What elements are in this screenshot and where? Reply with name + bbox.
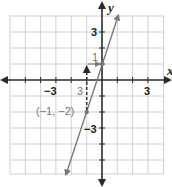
y-tick-label-neg3: −3 (84, 123, 97, 135)
x-tick-label-pos3: 3 (144, 85, 150, 97)
x-axis-label: x (166, 63, 172, 78)
y-tick-label-pos3: 3 (91, 26, 97, 38)
y-axis-label: y (106, 0, 114, 15)
point-y-intercept (100, 62, 104, 66)
point-neg1-neg2 (85, 110, 89, 114)
x-tick-label-neg3: −3 (44, 85, 57, 97)
rise-label: 3 (77, 85, 83, 97)
run-label: 1 (92, 51, 98, 63)
plot-line (67, 17, 118, 173)
coordinate-graph: y x −3 3 3 −3 (−1, −2) 3 1 (0, 0, 172, 187)
point-label: (−1, −2) (36, 105, 75, 117)
